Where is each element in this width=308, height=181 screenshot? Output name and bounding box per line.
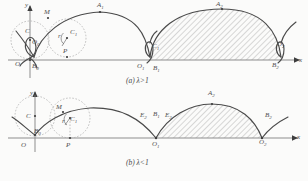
label-point-E2: E2 (140, 112, 147, 120)
label-x-axis-a: x (299, 57, 302, 64)
hatched-arch-region (150, 9, 281, 60)
label-point-O2-a: O2 (277, 41, 285, 49)
radius-segment-r (62, 38, 67, 46)
label-circle-C1-a: C1 (70, 29, 77, 37)
figure-canvas: y M A1 A2 C O0 r C1 P O B0 C1 O1 B1 O2 B… (0, 0, 308, 181)
label-point-M-a: M (44, 9, 50, 16)
point-marker-P-b (69, 137, 71, 139)
y-axis-arrowhead (27, 5, 32, 11)
label-point-O1-b: O1 (152, 141, 160, 149)
label-point-B0: B0 (32, 63, 39, 71)
label-point-B2-b: B2 (265, 112, 272, 120)
label-point-C-a: C (25, 28, 30, 35)
label-point-O2-b: O2 (259, 139, 267, 147)
point-marker-A2-b (211, 103, 213, 105)
label-point-B2-a: B2 (272, 62, 279, 70)
label-point-B1-b: B1 (153, 111, 160, 119)
point-marker-M (47, 17, 49, 19)
label-point-B0-b: B0 (34, 128, 41, 136)
label-point-A2-a: A2 (216, 1, 223, 9)
cycloid-loop-O2-tail (281, 22, 296, 43)
label-origin-O-a: O (15, 61, 20, 68)
curtate-cycloid-arch-1 (35, 108, 156, 138)
point-marker-B0 (29, 59, 31, 61)
label-y-axis-a: y (25, 2, 28, 9)
label-point-B1-a: B1 (153, 65, 160, 73)
panel-b-lambda-less-than-1: y C M r C1 B0 O P E2 B1 E3 A2 O1 B2 O2 x… (0, 90, 308, 181)
hatched-arch-region-b (156, 104, 262, 138)
point-marker-B1-b (155, 137, 157, 139)
point-marker-P (66, 56, 68, 58)
label-y-axis-b: y (30, 90, 33, 97)
caption-panel-a: (a) λ>1 (126, 76, 149, 85)
label-point-A1: A1 (97, 2, 104, 10)
point-marker-M-b (62, 111, 64, 113)
point-marker-C1 (66, 37, 68, 39)
label-point-P-b: P (66, 142, 70, 149)
label-point-O0: O0 (32, 39, 40, 47)
label-circle-C1-b: C1 (70, 116, 77, 124)
label-x-axis-b: x (297, 134, 300, 141)
label-circle-C-b: C (26, 113, 31, 120)
label-point-E3: E3 (165, 112, 172, 120)
curtate-cycloid-left-tail (12, 117, 35, 135)
label-point-P-a: P (63, 48, 67, 55)
label-radius-r-a: r (58, 33, 61, 40)
label-point-A2-b: A2 (208, 90, 215, 98)
point-marker-A1 (99, 11, 101, 13)
point-marker-O0 (29, 39, 31, 41)
radius-angle-arc (61, 33, 64, 44)
point-marker-C-b (34, 115, 36, 117)
caption-panel-b: (b) λ<1 (126, 158, 149, 167)
panel-b-drawing (0, 90, 308, 181)
label-point-O1-a: O1 (137, 63, 145, 71)
label-point-M-b: M (56, 104, 62, 111)
panel-a-lambda-greater-than-1: y M A1 A2 C O0 r C1 P O B0 C1 O1 B1 O2 B… (0, 0, 308, 90)
label-origin-O-b: O (21, 142, 26, 149)
label-radius-r-b: r (62, 118, 65, 125)
label-point-C1-right: C1 (152, 43, 159, 51)
